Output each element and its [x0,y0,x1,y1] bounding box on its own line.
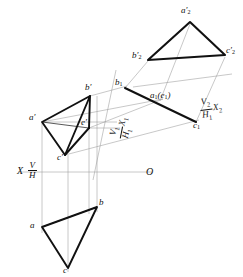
label-axis-X1: V1 H1 X1 [108,115,136,141]
projector-b1-to-b2 [125,61,148,88]
label-X-ground: X [17,165,23,176]
label-a1-e1: a1(e1) [150,91,171,100]
label-a: a [30,221,35,230]
label-b-prime: b′ [85,83,91,92]
top-view-triangle [42,207,97,268]
triangle-abc-true-shape [148,22,225,60]
label-O-origin: O [146,167,153,177]
triangle-abc-top [42,207,97,268]
label-a-prime: a′ [29,113,35,122]
label-a2-prime: a′2 [181,6,190,15]
label-V-over-H: V H [28,161,37,181]
reference-line-X2 [133,74,232,87]
edge-eprime-bprime [89,96,90,128]
label-axis-X2: V2 H1 X2 [199,95,223,122]
label-c1: c1 [193,121,200,130]
label-e-prime: e′ [81,118,87,127]
label-b1: b1 [115,78,123,87]
aux-view-2-triangle [148,22,225,60]
label-c: c [63,266,67,275]
edge-cprime-eprime [65,128,89,155]
label-c2-prime: c′2 [226,46,235,55]
label-b: b [99,198,104,207]
label-c-prime: c′ [57,153,63,162]
projector-aprime-to-a1 [42,99,163,122]
projector-bprime-to-b1 [90,86,127,96]
construction-lines [18,22,232,272]
drawing-canvas: a′ b′ c′ e′ a b c b1 a1(e1) c1 a′2 b′2 c… [0,0,243,277]
label-b2-prime: b′2 [132,51,141,60]
